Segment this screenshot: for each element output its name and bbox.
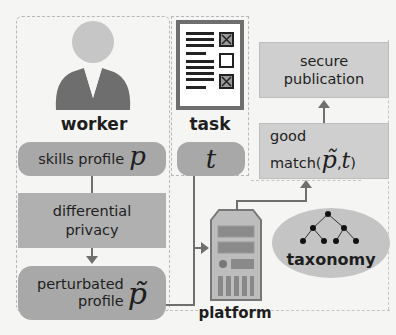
arrowhead-down <box>86 256 98 264</box>
taxonomy-label: taxonomy <box>272 250 390 269</box>
match-line2: match(p̃,t) <box>270 145 356 175</box>
taxonomy-tree-icon <box>290 210 370 250</box>
skills-profile-box: skills profile p <box>18 142 166 176</box>
secure-publication-box: secure publication <box>259 42 389 98</box>
match-line1: good <box>270 127 306 145</box>
task-t-box: t <box>177 142 245 176</box>
task-icon <box>176 20 244 110</box>
arrowhead-up-match <box>300 180 312 188</box>
connector-match-publication <box>323 106 325 123</box>
publication-line2: publication <box>284 70 364 88</box>
worker-icon <box>54 20 132 112</box>
platform-server-icon <box>209 208 263 302</box>
dp-line1: differential <box>53 202 132 220</box>
connector-platform-horizontal <box>236 200 306 202</box>
skills-profile-text: skills profile <box>38 151 124 167</box>
worker-label: worker <box>40 114 148 134</box>
publication-line1: secure <box>300 52 348 70</box>
task-label: task <box>174 114 246 134</box>
perturbed-line1: perturbated <box>37 276 124 293</box>
t-symbol: t <box>206 144 216 174</box>
connector-t-platform <box>193 176 195 306</box>
p-symbol: p <box>129 141 146 171</box>
perturbated-profile-box: perturbated profile p̃ <box>18 266 166 320</box>
good-match-box: good match(p̃,t) <box>259 123 389 179</box>
connector-skills-dp <box>91 176 93 194</box>
arrowhead-right-platform <box>201 242 209 254</box>
platform-label: platform <box>190 304 280 322</box>
arrowhead-up-publication <box>318 100 330 108</box>
dp-line2: privacy <box>65 221 118 239</box>
p-tilde-symbol: p̃ <box>128 276 147 311</box>
differential-privacy-box: differential privacy <box>18 193 166 248</box>
perturbed-line2: profile <box>78 293 124 310</box>
connector-to-match <box>305 186 307 202</box>
